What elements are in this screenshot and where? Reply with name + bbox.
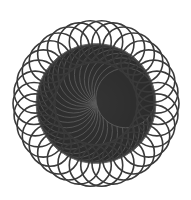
mesh-circle (96, 68, 156, 128)
spirograph-svg (0, 0, 191, 200)
spirograph-figure: Spirograph rosette pattern (0, 0, 191, 200)
